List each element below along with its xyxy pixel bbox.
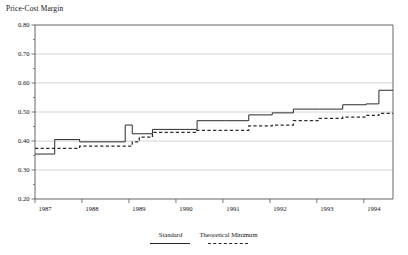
x-axis-tick-label: 1989 bbox=[132, 205, 146, 212]
chart-svg: 0.200.300.400.500.600.700.80 19871988198… bbox=[0, 0, 408, 255]
x-axis-ticks-group bbox=[35, 199, 364, 203]
y-axis-tick-label: 0.20 bbox=[18, 195, 30, 202]
y-axis-tick-label: 0.60 bbox=[18, 79, 30, 86]
x-axis-tick-label: 1988 bbox=[85, 205, 99, 212]
y-axis-tick-label: 0.70 bbox=[18, 50, 30, 57]
data-series-group bbox=[35, 90, 393, 154]
x-axis-tick-label: 1993 bbox=[320, 205, 334, 212]
y-axis-tick-label: 0.40 bbox=[18, 137, 30, 144]
data-series-line-theoretical-minimum bbox=[35, 113, 393, 148]
y-axis-labels-group: 0.200.300.400.500.600.700.80 bbox=[18, 21, 30, 202]
x-axis-tick-label: 1990 bbox=[179, 205, 193, 212]
y-axis-tick-label: 0.30 bbox=[18, 166, 30, 173]
chart-figure: Price-Cost Margin 0.200.300.400.500.600.… bbox=[0, 0, 408, 255]
y-axis-tick-label: 0.80 bbox=[18, 21, 30, 28]
legend-item-theoretical-minimum: Theoretical Minimum bbox=[199, 231, 257, 249]
data-series-line-standard bbox=[35, 90, 393, 154]
gridlines-group bbox=[35, 54, 393, 170]
chart-legend: Standard Theoretical Minimum bbox=[0, 231, 408, 253]
y-axis-tick-label: 0.50 bbox=[18, 108, 30, 115]
x-axis-tick-label: 1992 bbox=[273, 205, 286, 212]
x-axis-tick-label: 1987 bbox=[38, 205, 52, 212]
x-axis-tick-label: 1994 bbox=[367, 205, 381, 212]
plot-area: 0.200.300.400.500.600.700.80 19871988198… bbox=[0, 0, 408, 255]
legend-swatch-dashed-icon bbox=[208, 243, 248, 249]
legend-label-standard: Standard bbox=[159, 231, 182, 239]
legend-item-standard: Standard bbox=[150, 231, 190, 249]
x-axis-labels-group: 19871988198919901991199219931994 bbox=[38, 205, 381, 212]
legend-swatch-solid-icon bbox=[150, 243, 190, 249]
legend-label-theoretical-minimum: Theoretical Minimum bbox=[199, 231, 257, 239]
y-axis-ticks-group bbox=[32, 25, 36, 199]
x-axis-tick-label: 1991 bbox=[226, 205, 239, 212]
